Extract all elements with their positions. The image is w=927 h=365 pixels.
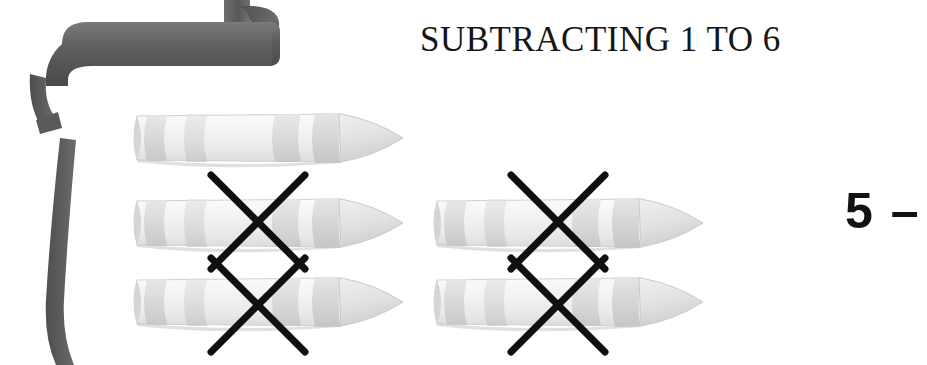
crayon-item [425, 262, 715, 342]
equation-minuend: 5 [845, 186, 873, 236]
cross-out-mark [203, 252, 313, 360]
subtraction-equation: 5 – [845, 186, 919, 236]
crayon-row [0, 183, 927, 263]
cross-out-mark [503, 252, 613, 360]
crayon-item [125, 183, 415, 263]
page-title: SUBTRACTING 1 TO 6 [420, 22, 781, 57]
crayon-row [0, 98, 927, 178]
crayon-item [125, 262, 415, 342]
worksheet-page: SUBTRACTING 1 TO 6 [0, 0, 927, 365]
crayon-row [0, 262, 927, 342]
minus-operator-icon: – [891, 186, 919, 236]
crayon-item [425, 183, 715, 263]
crayon-icon [125, 98, 415, 178]
crayon-item [125, 98, 415, 178]
